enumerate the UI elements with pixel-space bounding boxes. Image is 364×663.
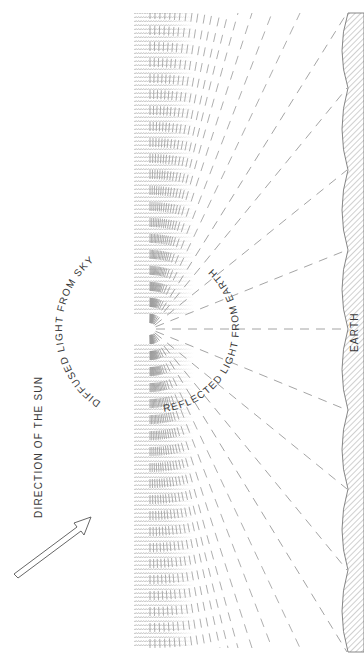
earth-label: EARTH <box>349 312 360 352</box>
diffused-light-label: DIFFUSED LIGHT FROM SKY <box>53 254 102 410</box>
sun-direction-arrow-icon <box>14 517 91 578</box>
light-sources-diagram: EARTH DIFFUSED LIGHT FROM SKY REFLECTED … <box>0 0 364 663</box>
sun-direction-label: DIRECTION OF THE SUN <box>33 376 44 518</box>
